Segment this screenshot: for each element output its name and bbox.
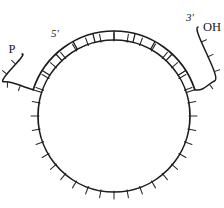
- diagram-canvas: 5' P 3' OH: [0, 0, 224, 208]
- three-prime-hydroxyl-label: OH: [203, 20, 221, 34]
- five-prime-phosphate-label: P: [9, 42, 16, 56]
- five-prime-label: 5': [51, 27, 60, 39]
- circular-nucleic-acid-diagram: 5' P 3' OH: [0, 0, 224, 208]
- three-prime-label: 3': [185, 11, 195, 23]
